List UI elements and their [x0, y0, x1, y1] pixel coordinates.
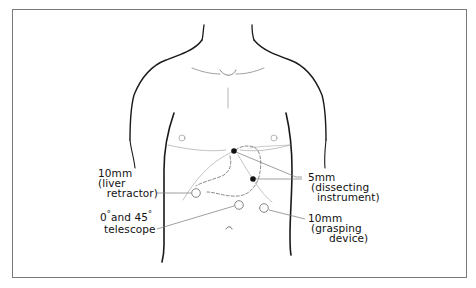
neck-right-outline: [252, 25, 254, 40]
sternal-notch: [220, 70, 236, 75]
label-dissecting-instrument: 5mm (dissecting instrument): [308, 172, 380, 202]
right-nipple: [271, 135, 277, 141]
leader-telescope: [157, 206, 234, 229]
port-grasping: [260, 204, 269, 213]
left-arm-outline: [130, 140, 135, 168]
left-flank-outline: [162, 113, 174, 262]
right-flank-outline: [286, 113, 292, 255]
left-clavicle: [192, 68, 220, 74]
label-dissecting-role2: instrument): [308, 192, 380, 202]
neck-left-outline: [202, 25, 204, 40]
label-liver-retractor: 10mm (liver retractor): [98, 168, 158, 198]
port-telescope: [235, 201, 244, 210]
right-clavicle: [236, 68, 264, 74]
port-liver-retractor: [192, 189, 201, 198]
left-shoulder-outline: [130, 40, 202, 140]
port-dissecting-upper: [231, 148, 237, 154]
torso-illustration: [0, 0, 476, 288]
label-grasping-role2: device): [308, 233, 368, 243]
left-nipple: [179, 135, 185, 141]
leader-grasping: [269, 210, 305, 219]
right-shoulder-outline: [254, 40, 326, 140]
label-liver-role2: retractor): [98, 188, 158, 198]
navel: [226, 227, 232, 229]
esophagus-outline: [196, 156, 231, 186]
left-pectoral: [168, 145, 226, 151]
label-telescope-role: telescope: [100, 224, 156, 234]
right-arm-outline: [325, 140, 326, 168]
port-dissecting-lower: [250, 176, 256, 182]
label-telescope: 0°and 45° telescope: [100, 212, 156, 234]
label-grasping-device: 10mm (grasping device): [308, 213, 368, 243]
